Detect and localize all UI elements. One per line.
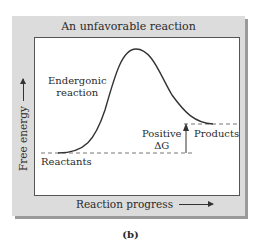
endergonic-label-line2: reaction [48, 87, 107, 99]
endergonic-label-line1: Endergonic [48, 75, 107, 87]
delta-g-label-line1: Positive [142, 128, 181, 140]
energy-diagram [0, 0, 261, 249]
delta-g-arrowhead-icon [183, 123, 189, 131]
x-axis-label: Reaction progress [76, 198, 213, 210]
endergonic-label: Endergonic reaction [48, 75, 107, 99]
x-axis-arrow-icon [179, 204, 213, 205]
y-axis-label-text: Free energy [17, 106, 29, 171]
figure-caption: (b) [0, 229, 261, 240]
y-axis-arrow-icon [23, 79, 24, 101]
delta-g-label-line2: ΔG [142, 140, 181, 152]
reactants-label: Reactants [41, 156, 92, 168]
products-label: Products [194, 128, 239, 140]
x-axis-label-text: Reaction progress [76, 198, 173, 210]
y-axis-label: Free energy [17, 79, 29, 171]
positive-delta-g-label: Positive ΔG [142, 128, 181, 152]
energy-curve [58, 49, 213, 153]
